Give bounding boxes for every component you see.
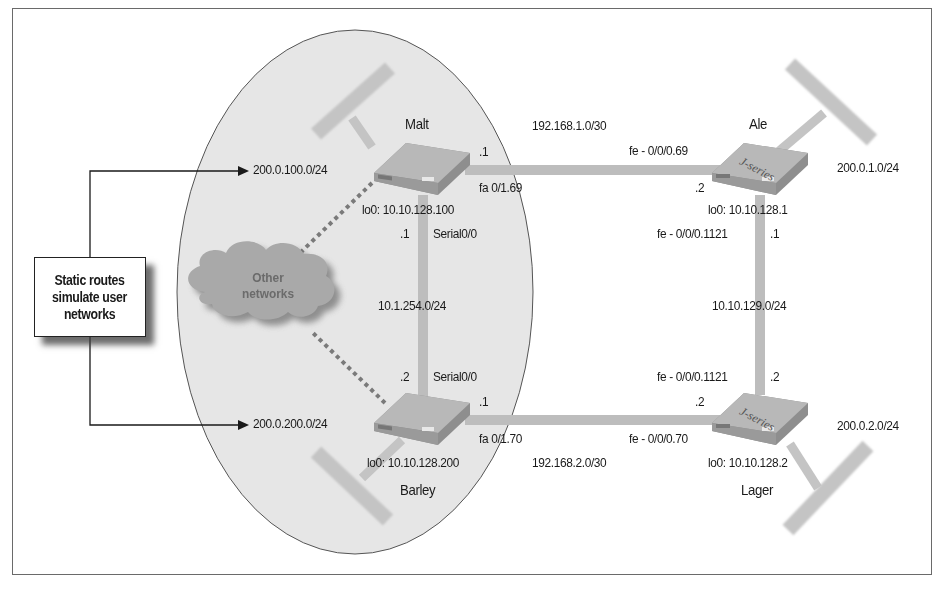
- malt-fa-interface: fa 0/1.69: [479, 180, 522, 195]
- router-name-lager: Lager: [741, 481, 773, 498]
- callout-line-1: Static routes: [53, 272, 128, 289]
- barley-serial-interface: Serial0/0: [433, 369, 477, 384]
- static-route-2: 200.0.200.0/24: [253, 416, 327, 431]
- cloud-label-line-1: Other: [242, 270, 295, 286]
- ale-fe-to-lager-interface: fe - 0/0/0.1121: [657, 226, 727, 241]
- static-routes-callout: Static routes simulate user networks: [34, 257, 146, 337]
- link-label-malt-barley: 10.1.254.0/24: [378, 298, 446, 313]
- cloud-label: Other networks: [242, 270, 295, 302]
- malt-serial-host: .1: [400, 226, 409, 241]
- callout-line-2: simulate user: [53, 289, 128, 306]
- malt-serial-interface: Serial0/0: [433, 226, 477, 241]
- barley-fa-interface: fa 0/1.70: [479, 431, 522, 446]
- lager-fe-to-ale-host: .2: [770, 369, 779, 384]
- router-name-malt: Malt: [405, 115, 429, 132]
- link-barley-lager: [465, 415, 720, 425]
- lan-lager-icon: [788, 444, 868, 530]
- link-label-malt-ale: 192.168.1.0/30: [532, 118, 606, 133]
- ale-fe-to-malt-host: .2: [695, 180, 704, 195]
- router-name-barley: Barley: [400, 481, 435, 498]
- barley-loopback: lo0: 10.10.128.200: [367, 455, 459, 470]
- lager-fe-to-barley-host: .2: [695, 394, 704, 409]
- ale-fe-to-malt-interface: fe - 0/0/0.69: [629, 143, 688, 158]
- lager-lan: 200.0.2.0/24: [837, 418, 899, 433]
- router-lager-icon: J-series: [712, 393, 808, 445]
- lan-ale-icon: [778, 64, 872, 152]
- malt-fa-host: .1: [479, 144, 488, 159]
- link-label-barley-lager: 192.168.2.0/30: [532, 455, 606, 470]
- ale-lan: 200.0.1.0/24: [837, 160, 899, 175]
- barley-serial-host: .2: [400, 369, 409, 384]
- lager-fe-to-ale-interface: fe - 0/0/0.1121: [657, 369, 727, 384]
- link-label-ale-lager: 10.10.129.0/24: [712, 298, 786, 313]
- static-route-1: 200.0.100.0/24: [253, 162, 327, 177]
- barley-fa-host: .1: [479, 394, 488, 409]
- router-name-ale: Ale: [749, 115, 767, 132]
- link-malt-ale: [465, 165, 720, 175]
- lager-loopback: lo0: 10.10.128.2: [708, 455, 788, 470]
- ale-fe-to-lager-host: .1: [770, 226, 779, 241]
- ale-loopback: lo0: 10.10.128.1: [708, 202, 788, 217]
- malt-loopback: lo0: 10.10.128.100: [362, 202, 454, 217]
- router-ale-icon: J-series: [712, 143, 808, 195]
- lager-fe-to-barley-interface: fe - 0/0/0.70: [629, 431, 688, 446]
- cloud-label-line-2: networks: [242, 286, 295, 302]
- link-ale-lager: [755, 195, 765, 395]
- callout-line-3: networks: [53, 306, 128, 323]
